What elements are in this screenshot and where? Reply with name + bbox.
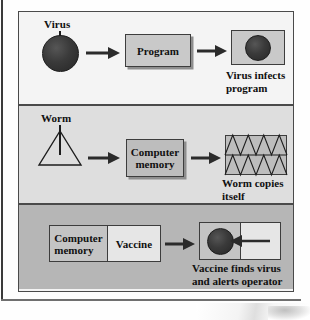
zigzag-triangles-icon bbox=[225, 135, 287, 175]
program-box: Program bbox=[125, 34, 191, 67]
diagram-frame: Virus Program Virus infects program Worm bbox=[18, 11, 294, 292]
arrow-vaccine-to-scan-icon bbox=[165, 237, 195, 251]
virus-caption: Virus infects program bbox=[226, 69, 285, 94]
page-edge-rule bbox=[1, 0, 3, 301]
worm-source-label: Worm bbox=[41, 112, 71, 124]
program-box-label: Program bbox=[137, 45, 179, 57]
virus-circle-icon bbox=[42, 35, 79, 72]
arrow-worm-to-memory-icon bbox=[88, 151, 120, 165]
arrow-program-to-result-icon bbox=[197, 44, 227, 58]
vaccine-caption: Vaccine finds virus and alerts operator bbox=[192, 262, 282, 287]
panel-worm: Worm Computer memory Worm copies itself bbox=[19, 106, 293, 205]
panel-virus: Virus Program Virus infects program bbox=[19, 12, 293, 106]
vaccine-cell: Vaccine bbox=[107, 226, 160, 261]
virus-circle-infected-icon bbox=[245, 35, 271, 61]
panel-vaccine: Computer memory Vaccine Vaccine finds vi… bbox=[19, 205, 293, 289]
computer-memory-cell: Computer memory bbox=[50, 226, 107, 261]
arrow-virus-to-program-icon bbox=[86, 46, 120, 60]
virus-source-label: Virus bbox=[44, 18, 70, 30]
worm-caption: Worm copies itself bbox=[222, 177, 283, 202]
computer-memory-box-worm: Computer memory bbox=[126, 139, 184, 177]
worm-copies-grid-box bbox=[225, 135, 287, 175]
computer-memory-box-worm-label: Computer memory bbox=[131, 146, 179, 170]
memory-vaccine-split-box: Computer memory Vaccine bbox=[49, 225, 161, 262]
worm-triangle-icon bbox=[38, 130, 82, 166]
arrow-detect-leftward-icon bbox=[228, 234, 270, 248]
virus-infected-program-box bbox=[231, 30, 285, 65]
arrow-memory-to-copies-icon bbox=[191, 151, 221, 165]
page-edge-bottom-rule bbox=[1, 299, 301, 301]
scan-artifact-corner bbox=[268, 306, 310, 320]
